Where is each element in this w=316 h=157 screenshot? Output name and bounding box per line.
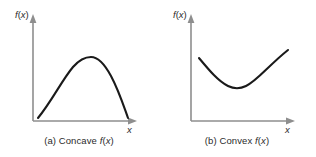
panel-caption-b: (b) Convex f(x) <box>158 134 316 147</box>
caption-text-b: (b) Convex <box>205 135 255 146</box>
caption-text-a: (a) Concave <box>44 135 100 146</box>
y-axis-arrowhead <box>30 14 37 23</box>
caption-function-a: f(x) <box>100 135 114 146</box>
panel-caption-a: (a) Concave f(x) <box>0 134 158 147</box>
y-axis-label: f(x) <box>173 9 187 20</box>
concave-plot: f(x) x <box>0 0 158 136</box>
concave-curve <box>38 57 128 118</box>
panel-concave: f(x) x (a) Concave f(x) <box>0 0 158 157</box>
convex-curve <box>199 50 288 88</box>
y-axis-arrowhead <box>188 14 195 23</box>
caption-function-b: f(x) <box>255 135 269 146</box>
convex-plot: f(x) x <box>158 0 316 136</box>
convexity-figure: f(x) x (a) Concave f(x) f(x) x (b) Conve… <box>0 0 316 157</box>
y-axis-label: f(x) <box>15 9 29 20</box>
panel-convex: f(x) x (b) Convex f(x) <box>158 0 316 157</box>
